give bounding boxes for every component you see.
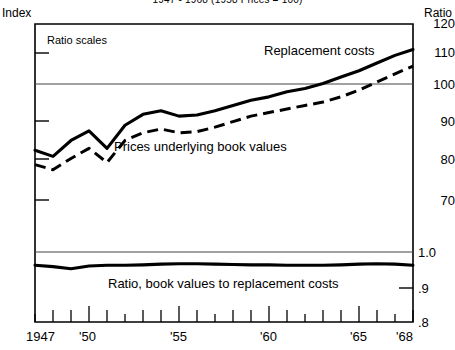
left-axis-ticks [35,53,49,200]
series-replacement-costs [35,49,413,156]
plot-frame [35,24,413,322]
series-prices-underlying-book-values [35,66,413,170]
chart-figure: 1947 - 1968 (1958 Prices = 100) Index Ra… [0,0,455,350]
x-axis-ticks [35,306,413,322]
series-ratio-book-to-replacement [35,264,413,269]
chart-canvas [0,0,455,350]
